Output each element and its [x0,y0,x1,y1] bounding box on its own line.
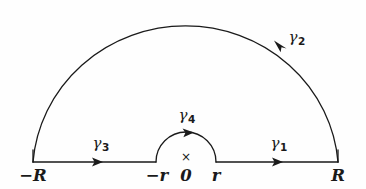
contour-diagram-figure: γ1 γ2 γ3 γ4 × −R −r 0 r R [0,0,366,189]
gamma1-label: γ1 [271,136,288,152]
gamma2-label: γ2 [289,30,306,46]
axis-label-R: R [331,168,345,185]
direction-arrowheads [92,41,287,167]
axis-label-zero: 0 [180,168,191,185]
gamma2-arrowhead [274,41,287,53]
pole-cross-icon: × [181,151,191,163]
gamma4-arrowhead [183,129,194,138]
axis-label-minus-R: −R [19,168,47,185]
gamma3-label: γ3 [93,136,110,152]
gamma4-label: γ4 [179,108,196,124]
axis-label-minus-r: −r [146,168,169,185]
axis-label-r: r [212,168,221,185]
